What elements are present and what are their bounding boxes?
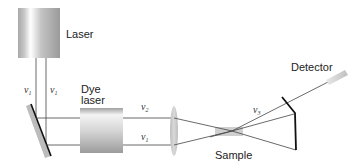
- diverging-middle: [232, 114, 294, 131]
- focusing-lens: [170, 106, 178, 156]
- diverging-lower: [232, 131, 296, 150]
- dye-laser: Dye laser: [80, 83, 123, 153]
- laser: Laser: [18, 8, 94, 58]
- nu2-label: ν2: [141, 101, 148, 113]
- nu1-label-horizontal: ν1: [141, 131, 148, 143]
- laser-body: [18, 8, 60, 58]
- mirror-right: [282, 97, 296, 150]
- detector-label: Detector: [291, 61, 333, 73]
- sample-label: Sample: [215, 149, 252, 161]
- nu2-converging: [174, 118, 232, 131]
- sample: Sample: [215, 127, 252, 161]
- nu1-label-left: ν1: [24, 84, 31, 96]
- laser-label: Laser: [66, 28, 94, 40]
- nu1-label-right: ν1: [50, 84, 57, 96]
- dye-laser-label-line2: laser: [81, 94, 105, 106]
- nu3-label: ν3: [253, 104, 260, 116]
- mirror-left: [26, 104, 51, 158]
- nu3-signal-beam: [232, 81, 330, 131]
- dye-laser-body: [80, 108, 123, 153]
- spectroscopy-setup-diagram: Laser ν1 ν1 Dye laser ν2 ν1 Sample ν3: [0, 0, 361, 168]
- detector: Detector: [291, 61, 348, 85]
